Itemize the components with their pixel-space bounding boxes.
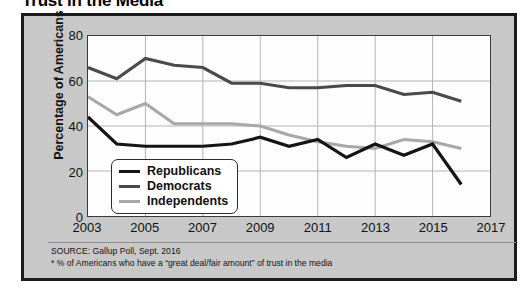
x-tick-label: 2017 [461, 220, 521, 235]
legend-item-republicans[interactable]: Republicans [119, 164, 228, 179]
legend-swatch-icon [119, 170, 140, 173]
legend-label: Republicans [147, 165, 221, 178]
chart-title: Trust in the Media [22, 0, 163, 11]
legend-item-independents[interactable]: Independents [119, 194, 228, 209]
source-note: SOURCE: Gallup Poll, Sept. 2016 [51, 245, 504, 257]
x-tick-label: 2013 [346, 220, 406, 235]
x-tick-label: 2009 [230, 220, 290, 235]
legend-swatch-icon [119, 185, 140, 188]
x-tick-label: 2005 [115, 220, 175, 235]
x-axis-tick-labels: 20032005200720092011201320152017 [87, 220, 491, 240]
chart-panel: Percentage of Americans 020406080 200320… [21, 13, 517, 281]
y-tick-label: 60 [43, 73, 83, 88]
y-tick-label: 80 [43, 28, 83, 43]
series-line-democrats [88, 59, 461, 102]
y-axis-tick-labels: 020406080 [38, 35, 83, 217]
methodology-note: * % of Americans who have a “great deal/… [51, 257, 504, 269]
legend-label: Democrats [147, 180, 212, 193]
x-tick-label: 2011 [288, 220, 348, 235]
chart-footer: SOURCE: Gallup Poll, Sept. 2016 * % of A… [51, 245, 504, 269]
chart-legend: RepublicansDemocratsIndependents [111, 159, 238, 214]
legend-item-democrats[interactable]: Democrats [119, 179, 228, 194]
legend-swatch-icon [119, 200, 140, 203]
x-tick-label: 2003 [57, 220, 117, 235]
y-tick-label: 40 [43, 119, 83, 134]
x-tick-label: 2015 [403, 220, 463, 235]
y-tick-label: 20 [43, 164, 83, 179]
legend-label: Independents [147, 195, 228, 208]
footer-divider [48, 242, 516, 243]
x-tick-label: 2007 [172, 220, 232, 235]
